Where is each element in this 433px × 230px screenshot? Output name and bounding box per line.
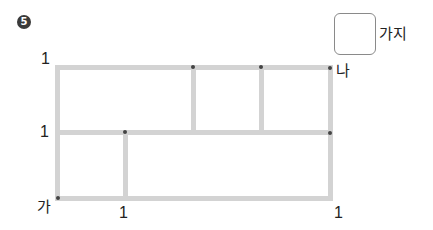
edge-label-left-middle: 1 [40, 124, 49, 140]
grid-point-start [56, 196, 60, 200]
grid-line-top-divider-1 [191, 65, 196, 135]
start-point-label: 가 [37, 200, 51, 215]
edge-label-bottom-middle: 1 [119, 205, 128, 221]
grid-line-top-divider-2 [259, 65, 264, 135]
grid-point-end [328, 66, 332, 70]
grid-line-left [55, 65, 60, 201]
problem-number-badge: 5 [17, 15, 31, 29]
edge-label-left-top: 1 [41, 51, 50, 67]
answer-unit-label: 가지 [379, 27, 407, 42]
grid-line-bottom [55, 196, 333, 201]
grid-point [191, 65, 195, 69]
edge-label-bottom-right: 1 [334, 205, 343, 221]
grid-point [259, 65, 263, 69]
end-point-label: 나 [336, 64, 350, 79]
grid-line-bottom-divider [123, 130, 128, 201]
grid-point [123, 130, 127, 134]
grid-point [328, 131, 332, 135]
answer-box[interactable] [334, 13, 376, 55]
